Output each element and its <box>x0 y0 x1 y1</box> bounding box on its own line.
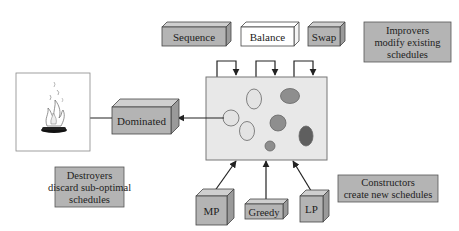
improvers-note-line-3: schedules <box>387 49 428 60</box>
destroyer-dominated-box: Dominated <box>112 99 179 134</box>
improver-balance-box: Balance <box>241 22 299 46</box>
improvers-note-line-2: modify existing <box>374 37 441 48</box>
improver-loop-arrows <box>217 61 313 77</box>
improver-sequence-box: Sequence <box>162 22 231 46</box>
constructors-note-line-2: create new schedules <box>344 189 433 200</box>
constructor-lp-box: LP <box>300 190 329 222</box>
improver-swap-box: Swap <box>308 22 345 46</box>
improver-balance-label: Balance <box>250 31 286 43</box>
arrow-mp-to-population <box>214 161 236 192</box>
constructor-greedy-box: Greedy <box>245 199 288 219</box>
destroyers-note-line-1: Destroyers <box>67 170 113 181</box>
destroyers-note-line-3: schedules <box>69 194 110 205</box>
improver-swap-label: Swap <box>312 31 337 43</box>
improver-loop-arrow-2 <box>256 61 275 77</box>
constructor-greedy-label: Greedy <box>249 207 281 218</box>
improver-sequence-label: Sequence <box>173 31 215 43</box>
schedule-3 <box>223 110 239 126</box>
improver-loop-arrow-3 <box>294 61 313 77</box>
constructors-note-line-1: Constructors <box>361 177 415 188</box>
schedule-6 <box>299 126 313 146</box>
improvers-note-line-1: Improvers <box>386 25 429 36</box>
schedule-1 <box>247 89 262 109</box>
constructor-mp-box: MP <box>196 189 234 225</box>
schedule-4 <box>240 122 255 141</box>
destroyers-note-line-2: discard sub-optimal <box>48 182 131 193</box>
destroyer-dominated-label: Dominated <box>117 115 166 127</box>
constructors-note: Constructors create new schedules <box>338 175 438 202</box>
constructor-lp-label: LP <box>305 203 318 215</box>
schedule-2 <box>281 89 300 104</box>
schedule-5 <box>270 115 286 131</box>
diagram: Sequence Balance Swap Improvers modify e… <box>0 0 459 231</box>
schedule-7 <box>265 141 275 151</box>
improver-loop-arrow-1 <box>217 61 236 77</box>
destroyers-note: Destroyers discard sub-optimal schedules <box>48 167 131 207</box>
constructor-mp-label: MP <box>204 205 220 217</box>
arrow-lp-to-population <box>293 161 313 194</box>
improvers-note: Improvers modify existing schedules <box>364 22 451 62</box>
discard-box <box>16 73 90 151</box>
